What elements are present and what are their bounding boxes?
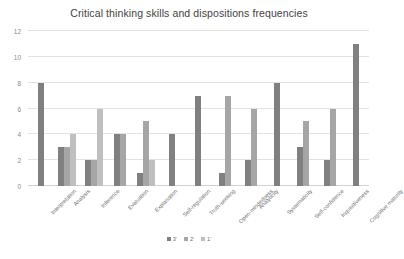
bar	[353, 44, 359, 186]
y-axis-tick-label: 6	[17, 105, 21, 112]
x-axis-tick-label: Cognitive maturity	[368, 188, 404, 224]
bar	[97, 109, 103, 187]
bar-group	[185, 31, 211, 186]
x-axis-tick-label: Self-regulation	[182, 188, 212, 218]
x-axis-tick-label: Systematicity	[286, 188, 314, 216]
legend-swatch	[201, 237, 205, 241]
bar-group	[264, 31, 290, 186]
bar	[225, 96, 231, 186]
legend-item[interactable]: 2'	[184, 236, 194, 242]
x-axis-labels: InterpretationAnalysisInferenceEvaluatio…	[28, 188, 369, 236]
x-axis-tick-label: Inference	[99, 188, 120, 209]
y-axis-tick-label: 4	[17, 131, 21, 138]
bar	[251, 109, 257, 187]
bar	[274, 83, 280, 186]
x-axis-tick-label: Evaluation	[126, 188, 149, 211]
y-axis-tick-label: 12	[14, 28, 21, 35]
bar-group	[133, 31, 159, 186]
legend-item[interactable]: 1'	[201, 236, 211, 242]
bar-group	[107, 31, 133, 186]
x-axis-tick-label: Truth-seeking	[207, 188, 235, 216]
bar-group	[80, 31, 106, 186]
legend-label: 3'	[173, 236, 177, 242]
chart-title: Critical thinking skills and disposition…	[0, 7, 378, 19]
y-axis-tick-label: 10	[14, 53, 21, 60]
legend-label: 1'	[207, 236, 211, 242]
bar	[120, 134, 126, 186]
legend-item[interactable]: 3'	[167, 236, 177, 242]
bar-group	[212, 31, 238, 186]
y-axis-tick-label: 8	[17, 79, 21, 86]
legend-swatch	[167, 237, 171, 241]
legend-label: 2'	[190, 236, 194, 242]
y-axis-ticks: 024681012	[0, 31, 26, 186]
bar	[195, 96, 201, 186]
chart-legend: 3'2'1'	[0, 236, 378, 242]
bar	[149, 160, 155, 186]
bar	[38, 83, 44, 186]
legend-swatch	[184, 237, 188, 241]
bar-group	[343, 31, 369, 186]
bar-group	[28, 31, 54, 186]
x-axis-tick-label: Explanation	[154, 188, 179, 213]
y-axis-tick-label: 0	[17, 183, 21, 190]
bar	[70, 134, 76, 186]
bars-layer	[28, 31, 369, 186]
bar-group	[159, 31, 185, 186]
bar	[303, 121, 309, 186]
y-axis-tick-label: 2	[17, 157, 21, 164]
bar-group	[317, 31, 343, 186]
bar	[169, 134, 175, 186]
bar-group	[54, 31, 80, 186]
bar	[330, 109, 336, 187]
bar-group	[238, 31, 264, 186]
bar-group	[290, 31, 316, 186]
